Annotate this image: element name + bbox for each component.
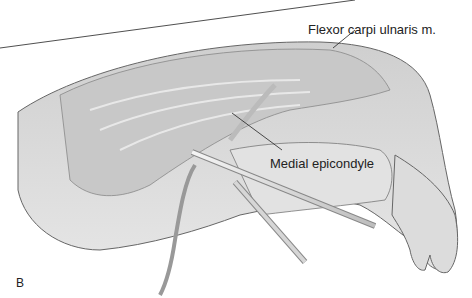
anatomy-figure: Flexor carpi ulnaris m. Medial epicondyl… — [0, 0, 472, 298]
panel-letter: B — [16, 276, 24, 290]
illustration — [0, 0, 472, 298]
label-medial-epicondyle: Medial epicondyle — [270, 156, 374, 171]
leader-line-fcu — [0, 0, 355, 48]
label-flexor-carpi-ulnaris: Flexor carpi ulnaris m. — [308, 22, 436, 37]
